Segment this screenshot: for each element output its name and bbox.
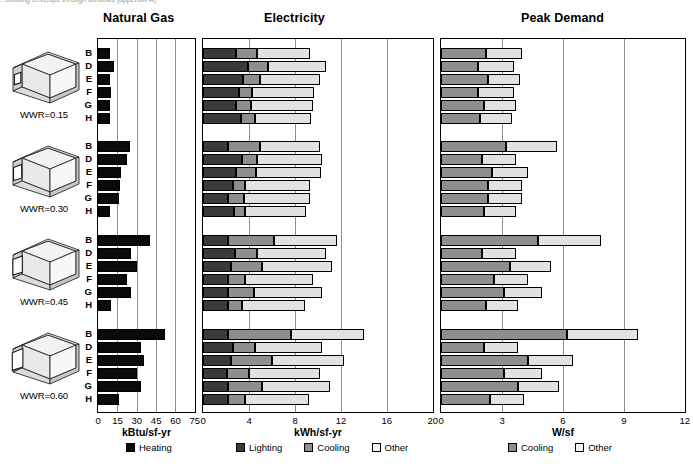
- x-tick-label: 15: [112, 415, 123, 426]
- bar-row: [98, 48, 195, 59]
- legend-swatch-heating-icon: [126, 443, 135, 452]
- bar-segment-cooling: [236, 48, 257, 59]
- bar-segment-other: [478, 87, 515, 98]
- bar-segment-cooling: [228, 287, 253, 298]
- bar-segment-heating: [98, 87, 111, 98]
- legend-item-other: Other: [372, 442, 409, 453]
- bar-segment-heating: [98, 300, 111, 311]
- bar-segment-other: [486, 48, 523, 59]
- wwr-label: WWR=0.45: [20, 296, 68, 307]
- bar-segment-heating: [98, 287, 131, 298]
- bar-segment-cooling: [441, 329, 567, 340]
- isometric-building-box-icon: [8, 50, 80, 108]
- bar-segment-other: [484, 100, 516, 111]
- bar-segment-other: [257, 154, 322, 165]
- bar-segment-other: [494, 274, 529, 285]
- row-label-h: H: [85, 394, 92, 403]
- bar-segment-heating: [98, 381, 141, 392]
- isometric-building-box-icon: [8, 331, 80, 389]
- bar-row: [203, 355, 433, 366]
- bar-segment-other: [252, 87, 314, 98]
- x-tick-label: 0: [96, 415, 101, 426]
- bar-segment-lighting: [203, 206, 234, 217]
- bar-row: [203, 206, 433, 217]
- bar-segment-cooling: [227, 368, 249, 379]
- bar-segment-cooling: [441, 61, 478, 72]
- row-label-h: H: [85, 206, 92, 215]
- legend-swatch-other-icon: [575, 443, 584, 452]
- bar-segment-cooling: [441, 287, 504, 298]
- bar-segment-other: [504, 368, 543, 379]
- bar-segment-cooling: [235, 248, 257, 259]
- bar-row: [98, 180, 195, 191]
- bar-segment-lighting: [203, 193, 228, 204]
- bar-segment-lighting: [203, 113, 241, 124]
- bar-segment-other: [262, 381, 331, 392]
- bar-segment-cooling: [441, 113, 480, 124]
- bar-segment-cooling: [242, 154, 257, 165]
- row-label-e: E: [86, 74, 92, 83]
- bar-segment-heating: [98, 48, 110, 59]
- bar-segment-cooling: [239, 87, 253, 98]
- x-tick-label: 4: [246, 415, 251, 426]
- bar-segment-cooling: [441, 394, 490, 405]
- bar-row: [441, 342, 685, 353]
- bar-row: [98, 368, 195, 379]
- row-label-e: E: [86, 355, 92, 364]
- panel-title-electricity: Electricity: [264, 11, 325, 25]
- bar-row: [98, 193, 195, 204]
- bar-segment-cooling: [231, 261, 262, 272]
- bar-segment-heating: [98, 180, 120, 191]
- bar-segment-cooling: [441, 355, 528, 366]
- legend-label: Other: [385, 442, 409, 453]
- bar-segment-heating: [98, 61, 114, 72]
- bar-row: [203, 61, 433, 72]
- bar-segment-heating: [98, 206, 110, 217]
- wwr-label: WWR=0.30: [20, 203, 68, 214]
- bar-row: [98, 235, 195, 246]
- window-opening-icon: [12, 349, 23, 371]
- bar-segment-lighting: [203, 154, 242, 165]
- x-tick-label: 30: [132, 415, 143, 426]
- plot-panel-peak-demand: [440, 38, 686, 413]
- bar-row: [441, 329, 685, 340]
- bar-segment-cooling: [441, 100, 484, 111]
- row-label-b: B: [85, 235, 92, 244]
- row-label-b: B: [85, 48, 92, 57]
- bar-row: [441, 261, 685, 272]
- row-label-e: E: [86, 261, 92, 270]
- bar-segment-lighting: [203, 355, 231, 366]
- bar-row: [441, 154, 685, 165]
- bar-segment-other: [482, 154, 517, 165]
- bar-segment-other: [257, 48, 310, 59]
- x-axis-label-natural-gas: kBtu/sf-yr: [122, 426, 171, 438]
- legend-natural-gas: Heating: [126, 440, 172, 454]
- bar-segment-heating: [98, 355, 144, 366]
- bar-row: [203, 381, 433, 392]
- bar-segment-other: [488, 74, 520, 85]
- legend-item-heating: Heating: [126, 442, 172, 453]
- bar-segment-other: [291, 329, 363, 340]
- bar-segment-cooling: [233, 180, 246, 191]
- bar-segment-lighting: [203, 248, 235, 259]
- bar-row: [203, 141, 433, 152]
- legend-swatch-cooling-icon: [304, 443, 313, 452]
- bar-row: [203, 154, 433, 165]
- bar-segment-other: [274, 235, 337, 246]
- panel-title-natural-gas: Natural Gas: [103, 11, 174, 25]
- bar-segment-heating: [98, 113, 110, 124]
- row-label-column: BDEFGHBDEFGHBDEFGHBDEFGH: [78, 38, 94, 413]
- bar-row: [203, 180, 433, 191]
- bar-segment-cooling: [441, 180, 488, 191]
- legend-label: Heating: [139, 442, 172, 453]
- bar-segment-lighting: [203, 300, 228, 311]
- bar-row: [441, 167, 685, 178]
- bar-row: [203, 342, 433, 353]
- bar-segment-heating: [98, 329, 165, 340]
- bar-segment-lighting: [203, 261, 231, 272]
- bar-row: [98, 342, 195, 353]
- bar-segment-other: [244, 193, 309, 204]
- bar-row: [98, 74, 195, 85]
- bar-row: [98, 141, 195, 152]
- bar-row: [441, 61, 685, 72]
